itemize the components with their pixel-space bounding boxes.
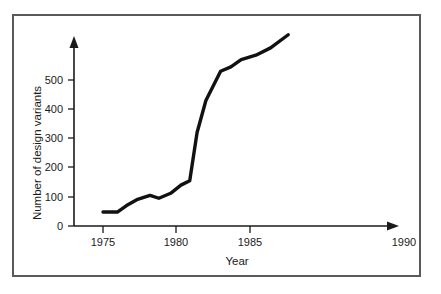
y-tick-label-500: 500 <box>45 74 63 86</box>
chart-figure: 0 100 200 300 400 500 1975 1980 1985 199… <box>0 0 441 294</box>
data-line-design-variants <box>103 35 288 212</box>
y-tick-label-200: 200 <box>45 161 63 173</box>
x-tick-label-1980: 1980 <box>164 236 188 248</box>
y-axis-title: Number of design variants <box>31 86 43 220</box>
y-tick-label-400: 400 <box>45 103 63 115</box>
line-chart-svg: 0 100 200 300 400 500 1975 1980 1985 199… <box>0 0 441 294</box>
x-tick-label-1975: 1975 <box>91 236 115 248</box>
y-axis-arrowhead <box>70 36 79 48</box>
x-tick-marks <box>103 226 250 233</box>
y-tick-label-300: 300 <box>45 132 63 144</box>
y-tick-label-100: 100 <box>45 191 63 203</box>
y-tick-marks <box>68 80 74 226</box>
x-tick-label-1990: 1990 <box>392 236 416 248</box>
y-tick-label-0: 0 <box>57 220 63 232</box>
x-tick-label-1985: 1985 <box>238 236 262 248</box>
x-axis-arrowhead <box>387 222 399 231</box>
x-axis-title: Year <box>225 255 248 267</box>
